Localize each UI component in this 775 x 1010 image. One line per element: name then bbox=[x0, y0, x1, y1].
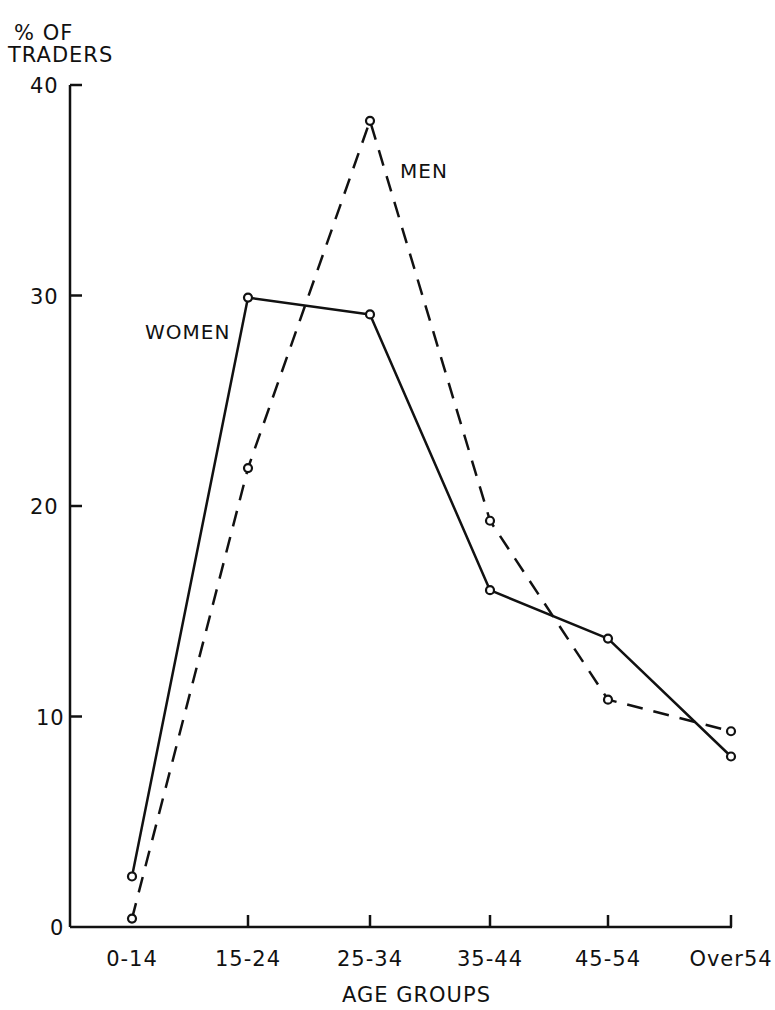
data-point-marker bbox=[366, 117, 374, 125]
y-tick-label: 40 bbox=[30, 74, 59, 98]
y-axis-ticks: 010203040 bbox=[30, 74, 82, 940]
x-axis-ticks: 0-1415-2425-3435-4445-54Over54 bbox=[106, 915, 772, 971]
y-axis-title-line-1: % OF bbox=[14, 21, 73, 45]
y-tick-label: 20 bbox=[30, 495, 59, 519]
x-tick-label: 25-34 bbox=[337, 947, 403, 971]
data-point-marker bbox=[486, 586, 494, 594]
y-tick-label: 30 bbox=[30, 285, 59, 309]
x-tick-label: 0-14 bbox=[106, 947, 158, 971]
series-men-line bbox=[128, 117, 735, 923]
line-chart: % OF TRADERS 010203040 0-1415-2425-3435-… bbox=[0, 0, 775, 1010]
series-women-line bbox=[128, 294, 735, 881]
y-tick-label: 10 bbox=[36, 706, 65, 730]
x-tick-label: 35-44 bbox=[457, 947, 523, 971]
x-tick-label: 45-54 bbox=[575, 947, 641, 971]
x-tick-label: 15-24 bbox=[215, 947, 281, 971]
chart-canvas: % OF TRADERS 010203040 0-1415-2425-3435-… bbox=[0, 0, 775, 1010]
women-series-label: WOMEN bbox=[145, 320, 230, 344]
x-axis-title: AGE GROUPS bbox=[342, 983, 491, 1007]
data-point-marker bbox=[727, 752, 735, 760]
series-path bbox=[132, 121, 731, 919]
data-point-marker bbox=[366, 310, 374, 318]
men-series-label: MEN bbox=[400, 159, 448, 183]
data-point-marker bbox=[244, 464, 252, 472]
data-point-marker bbox=[244, 294, 252, 302]
x-tick-label: Over54 bbox=[689, 947, 772, 971]
y-axis-title-line-2: TRADERS bbox=[7, 43, 113, 67]
series-path bbox=[132, 298, 731, 877]
data-point-marker bbox=[727, 727, 735, 735]
data-point-marker bbox=[128, 872, 136, 880]
data-point-marker bbox=[604, 635, 612, 643]
y-tick-label: 0 bbox=[50, 916, 64, 940]
data-point-marker bbox=[486, 517, 494, 525]
data-point-marker bbox=[604, 696, 612, 704]
data-point-marker bbox=[128, 915, 136, 923]
